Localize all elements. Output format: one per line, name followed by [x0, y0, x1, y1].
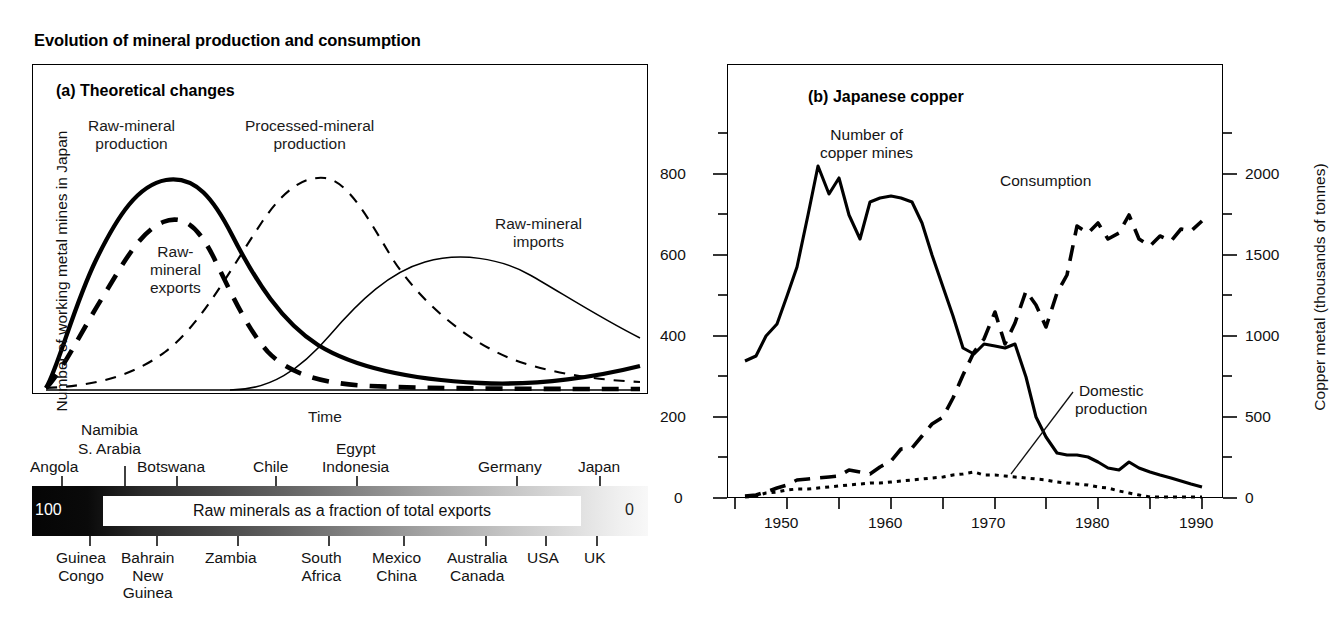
annotation-mines-line1: Number of — [830, 126, 902, 143]
panel-b-xtick-1960: 1960 — [868, 514, 902, 532]
panel-b-ytick-200: 200 — [660, 408, 686, 426]
series-domestic-production — [745, 472, 1202, 497]
annotation-number-of-copper-mines: Number of copper mines — [820, 126, 913, 162]
annotation-domestic-production: Domestic production — [1075, 382, 1147, 418]
series-consumption — [745, 215, 1202, 496]
scale-right-value: 0 — [625, 501, 634, 519]
scale-left-value: 100 — [35, 501, 62, 519]
annotation-domestic-line2: production — [1075, 400, 1147, 417]
panel-b-y2tick-0: 0 — [1245, 489, 1254, 507]
panel-b-ytick-800: 800 — [660, 165, 686, 183]
panel-b-xtick-1950: 1950 — [764, 514, 798, 532]
panel-b-ytick-0: 0 — [674, 489, 683, 507]
panel-b-ytick-600: 600 — [660, 246, 686, 264]
annotation-mines-line2: copper mines — [820, 144, 913, 161]
panel-b-y-axis-title: Number of working metal mines in Japan — [53, 121, 71, 421]
panel-b-y2tick-2000: 2000 — [1245, 165, 1279, 183]
panel-b-y2tick-1000: 1000 — [1245, 327, 1279, 345]
panel-b-xtick-1990: 1990 — [1179, 514, 1213, 532]
panel-b-xtick-1970: 1970 — [971, 514, 1005, 532]
panel-b-xtick-1980: 1980 — [1075, 514, 1109, 532]
panel-b-ytick-400: 400 — [660, 327, 686, 345]
domestic-production-leader-line — [1011, 392, 1073, 474]
series-number-of-copper-mines — [745, 166, 1202, 487]
panel-b-y2-axis-title: Copper metal (thousands of tonnes) — [1311, 122, 1329, 452]
annotation-consumption: Consumption — [1000, 172, 1091, 190]
annotation-domestic-line1: Domestic — [1079, 382, 1144, 399]
panel-b-y2tick-500: 500 — [1245, 408, 1271, 426]
panel-b-y2tick-1500: 1500 — [1245, 246, 1279, 264]
panel-b-plot — [0, 0, 1343, 634]
figure-root: Evolution of mineral production and cons… — [0, 0, 1343, 634]
